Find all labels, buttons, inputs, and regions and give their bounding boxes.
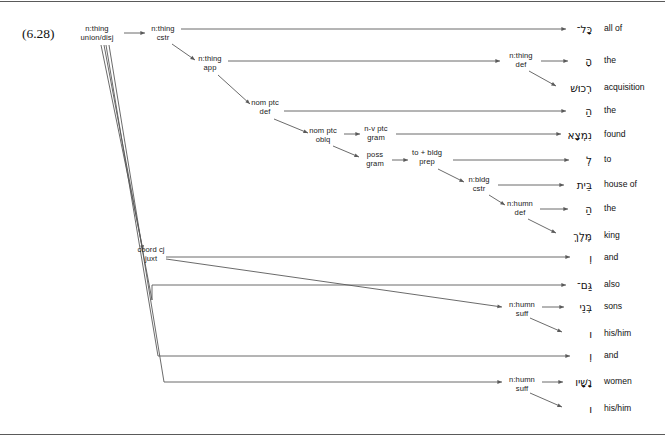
gloss-leaf-ve-2: and (604, 351, 618, 361)
tree-arrowhead-e-humnsuff1-bene (559, 305, 564, 309)
tree-node-thing-def: n:thingdef (509, 52, 532, 69)
tree-arrowhead-e-oblq-poss (354, 153, 359, 157)
tree-node-root: n:thingunion/disj (81, 25, 114, 42)
tree-node-label-line2: gram (366, 160, 384, 169)
tree-edge-e-thingdef-rekush (529, 71, 556, 86)
hebrew-word-leaf-beit: בֵּית (577, 180, 592, 191)
tree-arrowhead-e-cstr-kol (561, 27, 566, 31)
tree-arrowhead-e-humnsuff1-vav (557, 328, 562, 332)
tree-node-humn-suff-1: n:humnsuff (509, 301, 535, 318)
hebrew-word-leaf-gam: גַּם־ (577, 280, 592, 291)
tree-edge-e-coord-bene (166, 259, 502, 307)
hebrew-word-leaf-ve-1: וְ (589, 253, 592, 264)
tree-arrowhead-e-cstr-app (190, 56, 195, 60)
gloss-leaf-vav-2: his/him (604, 404, 631, 414)
tree-edge-e-humnsuff2-vav (530, 393, 562, 407)
tree-arrowhead-e-coord-bene (497, 304, 502, 308)
gloss-leaf-rekush: acquisition (604, 83, 645, 93)
tree-node-thing-app: n:thingapp (198, 55, 221, 72)
tree-node-coord-cj: coord cjjuxt (137, 246, 164, 263)
tree-edge-e-app-nomptcdef (218, 75, 250, 104)
hebrew-word-leaf-melekh: מֶּלֶךְ (573, 231, 592, 242)
tree-edge-e-nomptcdef-oblq (274, 119, 308, 133)
tree-arrowhead-e-humnsuff2-nashav (558, 380, 563, 384)
tree-arrowhead-e-nomptcdef-oblq (303, 129, 308, 133)
gloss-leaf-ha-3: the (604, 204, 616, 214)
tree-arrowhead-e-tobldg-le (564, 158, 569, 162)
tree-arrowhead-e-nomptcdef-ha2 (561, 109, 566, 113)
tree-arrowhead-e-root-cstr (140, 31, 145, 35)
tree-arrowhead-e-nbldg-beit (559, 183, 564, 187)
tree-node-poss-gram: possgram (366, 151, 384, 168)
gloss-leaf-ha-2: the (604, 106, 616, 116)
tree-node-thing-cstr: n:thingcstr (151, 25, 174, 42)
tree-arrowhead-e-coord-ve1 (565, 255, 570, 259)
hebrew-word-leaf-bene: בְּנֵי (579, 302, 592, 313)
hebrew-word-leaf-ha-1: הָ (585, 56, 592, 67)
tree-arrowhead-e-poss-tobldg (403, 158, 408, 162)
tree-node-nom-ptc-oblq: nom ptcoblq (309, 127, 337, 144)
hebrew-word-leaf-ha-3: הַ (585, 204, 592, 215)
tree-node-label-line2: juxt (137, 255, 164, 264)
tree-edge-e-root-gam (104, 45, 566, 300)
gloss-leaf-nimtsa: found (604, 130, 626, 140)
tree-node-label-line2: suff (509, 385, 535, 394)
tree-edges-layer (0, 0, 665, 436)
gloss-leaf-gam: also (604, 280, 620, 290)
hebrew-word-leaf-nimtsa: נִמְצָא (567, 130, 592, 141)
hebrew-word-leaf-kol: כָּל־ (577, 24, 592, 35)
hebrew-word-leaf-vav-1: ו (589, 329, 592, 340)
tree-node-label-line2: cstr (468, 185, 489, 194)
hebrew-word-leaf-le: לְ (586, 155, 592, 166)
tree-arrowhead-e-app-thingdef (495, 59, 500, 63)
tree-arrowhead-e-humnsuff2-vav (557, 403, 562, 407)
tree-arrowhead-e-root-nashav (497, 380, 502, 384)
tree-node-label-line2: suff (509, 310, 535, 319)
tree-edge-e-root-nashav (109, 45, 502, 382)
gloss-leaf-beit: house of (604, 180, 637, 190)
tree-node-label-line2: def (251, 108, 279, 117)
gloss-leaf-bene: sons (604, 302, 622, 312)
tree-node-label-line2: union/disj (81, 34, 114, 43)
gloss-leaf-ha-1: the (604, 56, 616, 66)
tree-node-to-bldg-prep: to + bldgprep (412, 149, 442, 166)
hebrew-word-leaf-nashav: נָשָׁיו (575, 377, 592, 388)
gloss-leaf-melekh: king (604, 231, 620, 241)
tree-arrowhead-e-nhumndef-ha3 (563, 207, 568, 211)
tree-node-humn-suff-2: n:humnsuff (509, 376, 535, 393)
tree-node-label-line2: def (507, 209, 533, 218)
gloss-leaf-ve-1: and (604, 253, 618, 263)
tree-edge-e-root-ve2 (106, 45, 570, 356)
tree-node-n-bldg-cstr: n:bldgcstr (468, 176, 489, 193)
tree-arrowhead-e-thingdef-ha (563, 59, 568, 63)
hebrew-word-leaf-ve-2: וְ (589, 351, 592, 362)
hebrew-word-leaf-vav-2: ו (589, 404, 592, 415)
tree-node-label-line2: prep (412, 158, 442, 167)
gloss-leaf-nashav: women (604, 377, 632, 387)
tree-edge-e-humnsuff1-vav (530, 318, 562, 332)
hebrew-word-leaf-rekush: רְכוּשׁ (570, 83, 592, 94)
tree-node-label-line2: gram (364, 134, 387, 143)
example-number-label: (6.28) (22, 26, 55, 42)
tree-edge-e-nhumndef-melekh (528, 219, 556, 233)
tree-node-label-line2: cstr (151, 34, 174, 43)
tree-node-nv-ptc-gram: n-v ptcgram (364, 125, 387, 142)
tree-node-label-line2: oblq (309, 136, 337, 145)
gloss-leaf-kol: all of (604, 24, 622, 34)
tree-arrowhead-e-oblq-nvptc (355, 132, 360, 136)
tree-arrowhead-e-root-ve2 (565, 354, 570, 358)
tree-node-label-line2: def (509, 61, 532, 70)
syntax-tree-figure: (6.28) n:thingunion/disjn:thingcstrn:thi… (0, 0, 665, 436)
hebrew-word-leaf-ha-2: הַ (585, 106, 592, 117)
tree-arrowhead-e-root-gam (561, 283, 566, 287)
gloss-leaf-vav-1: his/him (604, 329, 631, 339)
gloss-leaf-le: to (604, 155, 611, 165)
tree-node-label-line2: app (198, 64, 221, 73)
tree-arrowhead-e-nvptc-nimtsa (556, 132, 561, 136)
tree-node-n-humn-def: n:humndef (507, 200, 533, 217)
tree-node-nom-ptc-def: nom ptcdef (251, 99, 279, 116)
tree-arrowhead-e-nbldg-nhumndef (500, 201, 505, 205)
